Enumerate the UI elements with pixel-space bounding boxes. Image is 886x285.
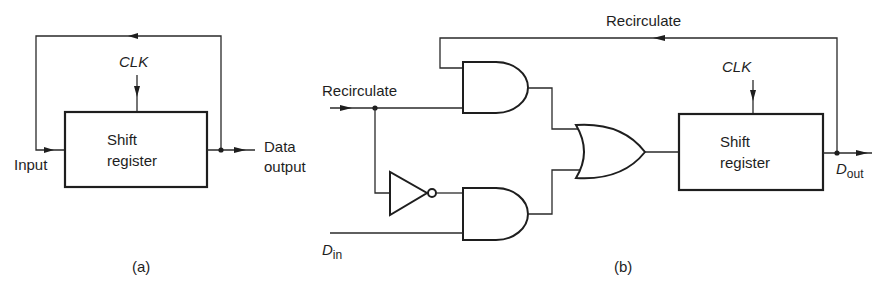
arrow-left-icon (128, 33, 138, 39)
and-gate-lower (463, 188, 528, 240)
data-output-label: Dout (836, 160, 864, 181)
block-label-a-2: register (107, 152, 157, 169)
diagram-a: CLK Shift register Data output Input (a) (14, 33, 307, 275)
output-label-a-2: output (264, 158, 307, 175)
caption-b: (b) (614, 258, 632, 275)
block-label-a-1: Shift (107, 131, 138, 148)
input-label-a: Input (14, 156, 48, 173)
and-lower-output-wire (528, 170, 580, 214)
block-label-b-1: Shift (720, 133, 751, 150)
arrow-right-icon (856, 150, 868, 156)
diagram-b: Recirculate Recirculate Din CLK Shift (322, 12, 872, 275)
and-gate-upper (463, 62, 528, 113)
arrow-down-icon (134, 86, 140, 97)
feedback-label-b: Recirculate (606, 12, 681, 29)
arrow-down-icon (750, 90, 756, 101)
inverter-bubble (428, 189, 436, 197)
shift-register-block-b (679, 114, 823, 190)
junction-dot (218, 147, 223, 152)
not-gate (390, 172, 427, 215)
shift-register-block-a (65, 112, 207, 187)
recirculate-input-label: Recirculate (322, 82, 397, 99)
arrow-right-icon (234, 147, 246, 153)
or-gate (576, 125, 645, 179)
arrow-right-icon (340, 105, 352, 111)
block-label-b-2: register (720, 154, 770, 171)
data-input-label: Din (322, 241, 342, 262)
output-label-a-1: Data (264, 138, 296, 155)
and-upper-output-wire (528, 88, 580, 129)
junction-dot (834, 150, 839, 155)
clock-label-a: CLK (119, 53, 149, 70)
clock-label-b: CLK (722, 58, 752, 75)
arrow-right-icon (44, 147, 54, 153)
diagram-canvas: CLK Shift register Data output Input (a)… (0, 0, 886, 285)
inverter-input-wire (375, 108, 390, 193)
caption-a: (a) (132, 258, 150, 275)
arrow-left-icon (653, 35, 665, 41)
